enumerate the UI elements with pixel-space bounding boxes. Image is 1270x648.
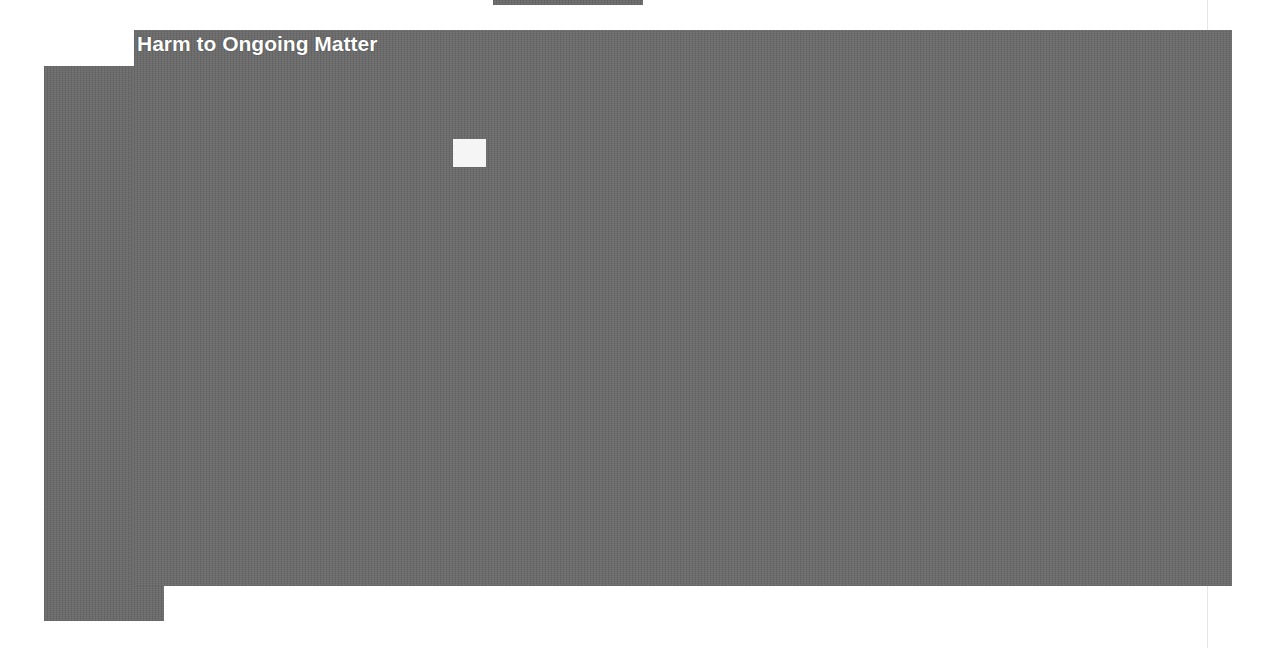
redaction-block-main — [134, 30, 1232, 586]
redaction-label: Harm to Ongoing Matter — [137, 31, 377, 57]
redaction-block-top — [493, 0, 643, 5]
unredacted-gap — [453, 139, 486, 167]
